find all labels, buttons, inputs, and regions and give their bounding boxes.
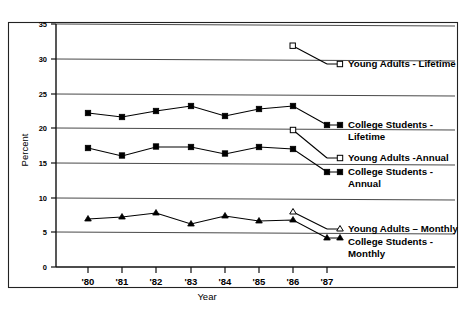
series-college-students-annual — [85, 144, 342, 175]
data-point-marker — [153, 210, 160, 216]
y-tick-label: 5 — [43, 228, 47, 237]
x-tick-label: '84 — [219, 276, 233, 287]
legend-label-college-students-annual: College Students - — [348, 166, 433, 177]
data-point-marker — [324, 169, 329, 174]
legend-marker-college-students-lifetime — [337, 122, 342, 127]
legend-label-college-students-monthly-line2: Monthly — [348, 248, 386, 259]
x-tick-label: '87 — [321, 276, 334, 287]
data-point-marker — [222, 113, 227, 118]
data-point-marker — [85, 145, 90, 150]
x-axis-title: Year — [197, 291, 216, 302]
legend-label-college-students-lifetime: College Students - — [348, 119, 433, 130]
data-point-marker — [222, 151, 227, 156]
legend: Young Adults - Lifetime College Students… — [348, 58, 458, 259]
data-point-marker — [119, 114, 124, 119]
x-tick-marks — [88, 267, 327, 273]
legend-label-college-students-annual-line2: Annual — [348, 178, 381, 189]
x-tick-label: '83 — [185, 276, 198, 287]
legend-label-young-adults-lifetime: Young Adults - Lifetime — [348, 58, 456, 69]
y-tick-label: 15 — [39, 159, 47, 168]
legend-marker-young-adults-monthly — [337, 226, 344, 232]
x-tick-label: '86 — [287, 276, 300, 287]
x-tick-label: '81 — [116, 276, 130, 287]
legend-marker-young-adults-lifetime — [337, 61, 342, 66]
data-point-marker — [188, 103, 193, 108]
x-tick-label: '82 — [150, 276, 163, 287]
data-point-marker — [85, 216, 92, 222]
data-point-marker — [290, 217, 297, 223]
data-point-marker — [290, 43, 295, 48]
legend-label-college-students-monthly: College Students - — [348, 236, 433, 247]
legend-marker-college-students-monthly — [337, 235, 344, 241]
series-young-adults-monthly — [290, 209, 344, 232]
y-tick-label: 30 — [39, 55, 47, 64]
data-point-marker — [324, 122, 329, 127]
legend-label-young-adults-monthly: Young Adults – Monthly — [348, 223, 458, 234]
data-point-marker — [290, 209, 297, 215]
series-young-adults-annual — [290, 127, 342, 160]
data-point-marker — [153, 144, 158, 149]
y-tick-label: 35 — [39, 20, 47, 29]
y-axis-tick-labels: 35 30 25 20 15 10 5 0 — [39, 20, 47, 272]
series-college-students-lifetime — [85, 103, 342, 127]
data-point-marker — [222, 213, 229, 219]
data-point-marker — [85, 110, 90, 115]
x-tick-label: '85 — [253, 276, 267, 287]
legend-label-college-students-lifetime-line2: Lifetime — [348, 131, 386, 142]
data-point-marker — [256, 144, 261, 149]
y-tick-marks — [51, 24, 56, 267]
data-point-marker — [290, 146, 295, 151]
legend-label-young-adults-annual: Young Adults -Annual — [348, 152, 449, 163]
chart-figure: 35 30 25 20 15 10 5 0 Percent '80 '81 '8… — [0, 0, 474, 310]
legend-marker-college-students-annual — [337, 169, 342, 174]
data-point-marker — [153, 108, 158, 113]
data-point-marker — [290, 127, 295, 132]
legend-marker-young-adults-annual — [337, 155, 342, 160]
data-point-marker — [290, 103, 295, 108]
y-tick-label: 0 — [43, 263, 47, 272]
y-axis-title: Percent — [19, 133, 30, 166]
y-tick-label: 25 — [39, 90, 47, 99]
data-point-marker — [256, 106, 261, 111]
y-tick-label: 10 — [39, 194, 47, 203]
x-tick-label: '80 — [82, 276, 95, 287]
line-chart: 35 30 25 20 15 10 5 0 Percent '80 '81 '8… — [0, 0, 474, 310]
x-axis-tick-labels: '80 '81 '82 '83 '84 '85 '86 '87 — [82, 276, 334, 287]
series-young-adults-lifetime — [290, 43, 343, 67]
data-point-marker — [119, 153, 124, 158]
data-point-marker — [188, 144, 193, 149]
y-tick-label: 20 — [39, 124, 47, 133]
series-college-students-monthly — [85, 210, 344, 241]
